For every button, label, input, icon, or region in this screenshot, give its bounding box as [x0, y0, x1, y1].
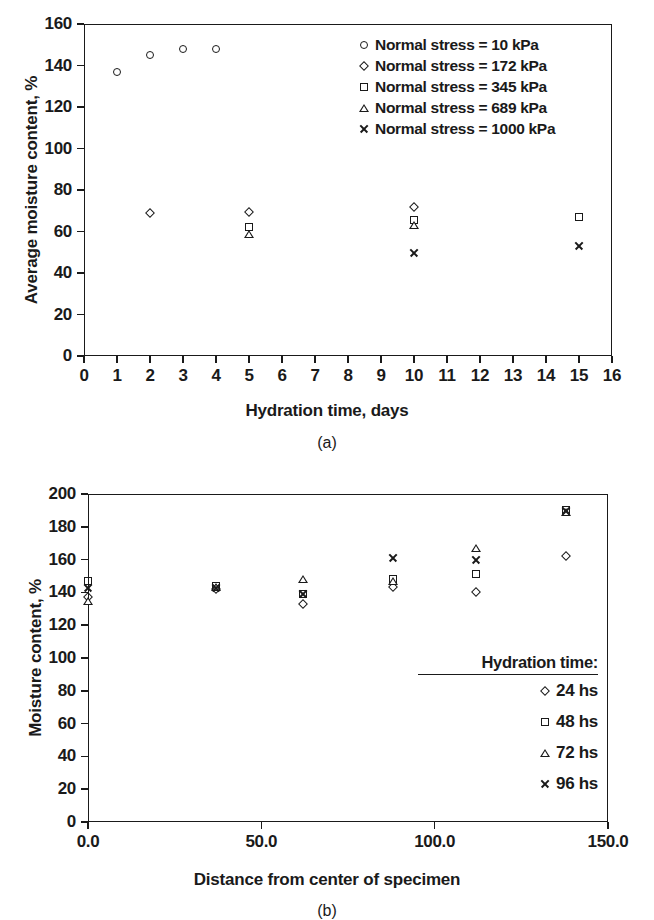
- y-tick-label: 80: [0, 180, 72, 200]
- legend-label: Normal stress = 345 kPa: [375, 78, 547, 96]
- y-tick-label: 100: [0, 139, 72, 159]
- y-tick-mark: [77, 148, 84, 150]
- legend-item: 48 hs: [418, 706, 598, 737]
- y-tick-mark: [81, 723, 88, 725]
- x-tick-mark: [314, 356, 316, 363]
- x-tick-label: 10: [405, 366, 423, 386]
- y-tick-label: 180: [0, 517, 76, 537]
- x-tick-mark: [512, 356, 514, 363]
- x-tick-mark: [248, 356, 250, 363]
- marker-cross: [359, 124, 369, 134]
- legend-item: Normal stress = 689 kPa: [356, 97, 555, 118]
- marker-square: [360, 83, 368, 91]
- legend-b: Hydration time: 24 hs48 hs72 hs96 hs: [418, 653, 598, 799]
- legend-b-rows: 24 hs48 hs72 hs96 hs: [418, 675, 598, 799]
- y-tick-mark: [81, 526, 88, 528]
- marker-triangle: [540, 749, 550, 757]
- x-tick-label: 4: [211, 366, 220, 386]
- y-tick-mark: [81, 624, 88, 626]
- marker-diamond: [540, 686, 550, 696]
- y-tick-mark: [81, 690, 88, 692]
- legend-marker-square-icon: [356, 79, 372, 95]
- x-tick-mark: [545, 356, 547, 363]
- legend-item: 24 hs: [418, 675, 598, 706]
- legend-label: Normal stress = 172 kPa: [375, 57, 547, 75]
- x-tick-label: 13: [504, 366, 522, 386]
- y-tick-label: 140: [0, 56, 72, 76]
- x-tick-mark: [149, 356, 151, 363]
- legend-item: 72 hs: [418, 737, 598, 768]
- x-tick-mark: [479, 356, 481, 363]
- marker-square: [541, 718, 549, 726]
- legend-marker-triangle-icon: [356, 100, 372, 116]
- x-tick-label: 3: [178, 366, 187, 386]
- x-tick-mark: [434, 822, 436, 829]
- y-tick-label: 160: [0, 550, 76, 570]
- x-tick-mark: [578, 356, 580, 363]
- y-tick-mark: [77, 314, 84, 316]
- marker-cross: [540, 779, 550, 789]
- y-tick-mark: [77, 23, 84, 25]
- legend-marker-diamond-icon: [537, 683, 553, 699]
- y-tick-mark: [77, 106, 84, 108]
- legend-label: 96 hs: [556, 774, 598, 794]
- x-tick-mark: [281, 356, 283, 363]
- y-tick-label: 20: [0, 305, 72, 325]
- legend-label: 72 hs: [556, 743, 598, 763]
- x-tick-label: 7: [310, 366, 319, 386]
- x-tick-label: 8: [343, 366, 352, 386]
- x-tick-label: 6: [277, 366, 286, 386]
- legend-a: Normal stress = 10 kPaNormal stress = 17…: [356, 34, 555, 139]
- x-tick-mark: [83, 356, 85, 363]
- x-tick-label: 14: [537, 366, 555, 386]
- x-tick-label: 150.0: [587, 832, 628, 852]
- legend-label: Normal stress = 689 kPa: [375, 99, 547, 117]
- x-tick-label: 100.0: [414, 832, 455, 852]
- x-axis-label-a: Hydration time, days: [0, 401, 654, 421]
- y-tick-label: 120: [0, 615, 76, 635]
- x-tick-mark: [611, 356, 613, 363]
- marker-triangle: [409, 221, 419, 229]
- legend-title-b: Hydration time:: [418, 653, 598, 675]
- x-tick-label: 2: [145, 366, 154, 386]
- marker-triangle: [359, 104, 369, 112]
- y-tick-label: 160: [0, 14, 72, 34]
- marker-triangle: [211, 583, 221, 591]
- marker-triangle: [388, 577, 398, 585]
- legend-item: Normal stress = 10 kPa: [356, 34, 555, 55]
- x-tick-mark: [413, 356, 415, 363]
- y-tick-label: 40: [0, 263, 72, 283]
- x-tick-label: 0: [79, 366, 88, 386]
- x-tick-label: 5: [244, 366, 253, 386]
- y-tick-label: 120: [0, 97, 72, 117]
- legend-item: Normal stress = 345 kPa: [356, 76, 555, 97]
- y-tick-mark: [81, 657, 88, 659]
- legend-item: Normal stress = 1000 kPa: [356, 118, 555, 139]
- x-tick-label: 12: [471, 366, 489, 386]
- y-tick-label: 0: [0, 346, 72, 366]
- x-tick-label: 50.0: [245, 832, 277, 852]
- y-tick-label: 100: [0, 648, 76, 668]
- x-tick-label: 9: [376, 366, 385, 386]
- x-tick-mark: [380, 356, 382, 363]
- legend-item: Normal stress = 172 kPa: [356, 55, 555, 76]
- chart-panel-b: Moisture content, % 02040608010012014016…: [0, 460, 654, 918]
- legend-marker-cross-icon: [356, 121, 372, 137]
- y-tick-label: 0: [0, 812, 76, 832]
- x-tick-label: 1: [112, 366, 121, 386]
- x-tick-mark: [215, 356, 217, 363]
- x-tick-label: 15: [570, 366, 588, 386]
- marker-triangle: [471, 544, 481, 552]
- x-tick-label: 0.0: [77, 832, 100, 852]
- y-tick-label: 40: [0, 746, 76, 766]
- chart-panel-a: Average moisture content, % 020406080100…: [0, 0, 654, 460]
- x-tick-mark: [607, 822, 609, 829]
- x-tick-label: 11: [438, 366, 455, 386]
- y-tick-mark: [77, 65, 84, 67]
- legend-marker-triangle-icon: [537, 745, 553, 761]
- y-tick-mark: [81, 559, 88, 561]
- y-tick-label: 60: [0, 714, 76, 734]
- legend-marker-cross-icon: [537, 776, 553, 792]
- legend-marker-square-icon: [537, 714, 553, 730]
- marker-triangle: [244, 230, 254, 238]
